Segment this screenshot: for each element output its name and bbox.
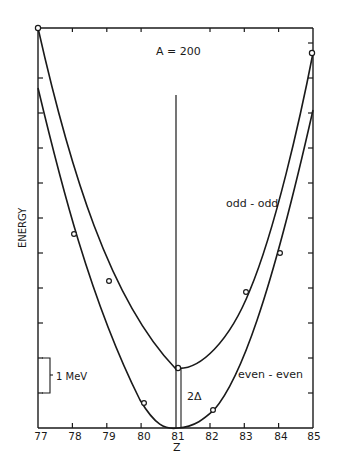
odd-odd-label: odd - odd — [226, 197, 278, 210]
svg-text:80: 80 — [137, 430, 150, 442]
even-even-markers — [72, 232, 283, 413]
y-axis-label: ENERGY — [17, 207, 28, 248]
svg-text:82: 82 — [205, 430, 218, 442]
mass-parabola-chart: A = 200 odd - odd even - even 2Δ 1 MeV E… — [0, 0, 338, 475]
svg-text:77: 77 — [34, 430, 47, 442]
x-tick-labels: 77 78 79 80 81 82 83 84 85 — [34, 430, 320, 442]
svg-text:84: 84 — [274, 430, 288, 442]
svg-text:78: 78 — [68, 430, 81, 442]
scale-label: 1 MeV — [56, 371, 87, 382]
svg-text:83: 83 — [239, 430, 252, 442]
even-even-label: even - even — [238, 368, 303, 381]
x-axis-label: Z — [173, 441, 181, 454]
svg-text:85: 85 — [307, 430, 320, 442]
svg-text:81: 81 — [171, 430, 184, 442]
scale-bracket — [42, 358, 53, 393]
chart-title: A = 200 — [156, 45, 201, 58]
two-delta-label: 2Δ — [187, 390, 202, 403]
svg-text:79: 79 — [102, 430, 115, 442]
